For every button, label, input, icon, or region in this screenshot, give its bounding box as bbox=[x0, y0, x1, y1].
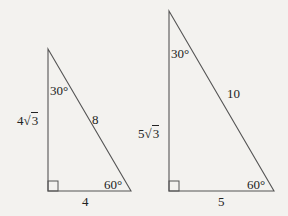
diagram-canvas: 30° 8 4√3 60° 4 30° 10 5√3 60° 5 bbox=[0, 0, 288, 216]
right-angle-marker-large bbox=[169, 181, 179, 191]
base-label-large: 5 bbox=[218, 195, 225, 208]
angle-label-60-small: 60° bbox=[104, 178, 122, 191]
radicand: 3 bbox=[31, 112, 39, 128]
hypotenuse-label-large: 10 bbox=[227, 87, 240, 100]
triangles-svg bbox=[0, 0, 288, 216]
angle-label-30-large: 30° bbox=[171, 47, 189, 60]
triangle-large bbox=[169, 11, 274, 191]
sqrt-symbol: √ bbox=[145, 126, 152, 141]
angle-label-60-large: 60° bbox=[247, 178, 265, 191]
sqrt-symbol: √ bbox=[24, 113, 31, 128]
vertical-leg-label-large: 5√3 bbox=[138, 127, 288, 140]
base-label-small: 4 bbox=[82, 195, 89, 208]
right-angle-marker-small bbox=[48, 181, 58, 191]
angle-label-30-small: 30° bbox=[50, 84, 68, 97]
radicand: 3 bbox=[152, 125, 160, 141]
